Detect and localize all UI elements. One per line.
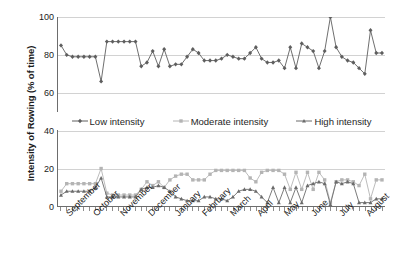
data-point <box>317 171 320 174</box>
data-point <box>288 45 292 49</box>
data-point <box>306 171 309 174</box>
y-axis-tick-80: 80 <box>20 50 54 60</box>
data-point <box>151 49 155 53</box>
data-point <box>294 185 298 189</box>
data-point <box>82 55 86 59</box>
data-point <box>122 39 126 43</box>
data-point <box>145 60 149 64</box>
data-point <box>340 178 343 181</box>
data-point <box>323 49 327 53</box>
data-point <box>317 66 321 70</box>
data-point <box>157 180 160 183</box>
legend-item-label: Low intensity <box>90 116 145 127</box>
data-point <box>116 39 120 43</box>
data-point <box>300 188 303 191</box>
data-point <box>59 193 63 197</box>
data-point <box>271 185 275 189</box>
data-point <box>185 173 188 176</box>
data-point <box>220 169 223 172</box>
data-point <box>208 173 211 176</box>
data-point <box>271 169 274 172</box>
data-point <box>243 169 246 172</box>
data-point <box>237 56 241 60</box>
data-point <box>105 39 109 43</box>
data-point <box>312 188 315 191</box>
data-point <box>300 201 304 205</box>
legend-item-label: High intensity <box>314 116 371 127</box>
data-point <box>162 47 166 51</box>
data-point <box>294 66 298 70</box>
series-line <box>61 17 382 81</box>
data-point <box>59 190 62 193</box>
data-point <box>88 55 92 59</box>
legend-item-low-intensity[interactable]: Low intensity <box>71 116 145 127</box>
rowing-intensity-line-chart: Intensity of Rowing (% of time) 02040608… <box>0 0 399 272</box>
y-axis-tick-60: 60 <box>20 88 54 98</box>
data-point <box>283 173 286 176</box>
data-point <box>214 58 218 62</box>
x-axis-month-labels: SeptemberOctoberNovemberDecemberJanuaryF… <box>0 211 399 272</box>
legend-marker-icon <box>295 116 313 126</box>
data-point <box>156 183 160 187</box>
data-point <box>369 197 372 200</box>
data-point <box>271 60 275 64</box>
data-point <box>191 178 194 181</box>
data-point <box>266 169 269 172</box>
data-point <box>254 180 257 183</box>
data-point <box>208 58 212 62</box>
data-point <box>248 176 251 179</box>
data-point <box>300 41 304 45</box>
data-point <box>305 45 309 49</box>
data-point <box>231 55 235 59</box>
data-point <box>369 28 373 32</box>
y-axis-tick-100: 100 <box>20 12 54 22</box>
data-point <box>317 180 321 184</box>
y-axis-tick-40: 40 <box>20 126 54 136</box>
data-point <box>294 171 297 174</box>
data-point <box>323 178 326 181</box>
data-point <box>128 39 132 43</box>
data-point <box>174 62 178 66</box>
data-point <box>70 55 74 59</box>
data-point <box>231 169 234 172</box>
legend-item-high-intensity[interactable]: High intensity <box>295 116 371 127</box>
data-point <box>346 58 350 62</box>
legend-marker-icon <box>71 116 89 126</box>
legend-item-label: Moderate intensity <box>191 116 269 127</box>
data-point <box>214 169 217 172</box>
data-point <box>283 185 287 189</box>
data-point <box>226 169 229 172</box>
data-point <box>174 174 177 177</box>
data-point <box>197 178 200 181</box>
data-point <box>93 55 97 59</box>
data-point <box>76 182 79 185</box>
legend-marker-icon <box>172 116 190 126</box>
data-point <box>380 51 384 55</box>
data-point <box>99 79 103 83</box>
data-point <box>76 55 80 59</box>
data-point <box>374 51 378 55</box>
data-point <box>363 173 366 176</box>
data-point <box>277 201 281 205</box>
data-point <box>168 178 171 181</box>
data-point <box>311 49 315 53</box>
data-point <box>156 64 160 68</box>
legend-item-moderate-intensity[interactable]: Moderate intensity <box>172 116 269 127</box>
data-point <box>260 56 264 60</box>
data-point <box>180 173 183 176</box>
series-low-intensity <box>59 17 384 84</box>
data-point <box>277 169 280 172</box>
data-point <box>134 39 138 43</box>
data-point <box>139 64 143 68</box>
data-point <box>82 182 85 185</box>
data-point <box>99 167 102 170</box>
data-point <box>237 169 240 172</box>
data-point <box>328 17 332 19</box>
data-point <box>203 178 206 181</box>
data-point <box>375 178 378 181</box>
data-point <box>225 53 229 57</box>
data-point <box>219 56 223 60</box>
data-point <box>380 178 383 181</box>
chart-legend: Low intensityModerate intensityHigh inte… <box>57 112 385 130</box>
data-point <box>357 184 360 187</box>
